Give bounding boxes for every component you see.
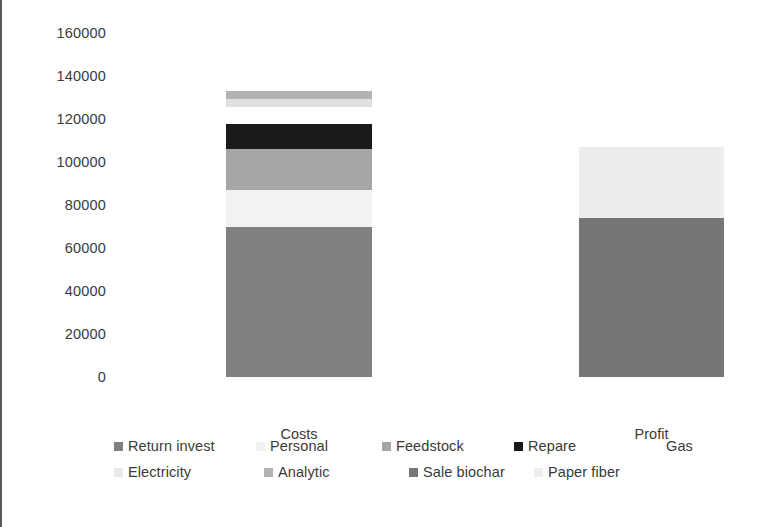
y-axis-tick-label: 0 [10,370,106,385]
y-axis-tick-label: 140000 [10,69,106,84]
bar-segment-return-invest[interactable] [226,227,372,377]
legend-row-1: Return investPersonalFeedstockRepareGas [114,438,734,464]
legend-swatch-icon [409,468,418,477]
bar-segment-sale-biochar[interactable] [579,218,724,377]
bar-stack-profit[interactable] [579,147,724,377]
legend-swatch-icon [382,442,391,451]
legend-item-return-invest[interactable]: Return invest [114,438,215,454]
legend-swatch-icon [652,442,661,451]
bar-segment-feedstock[interactable] [226,149,372,190]
legend-swatch-icon [114,442,123,451]
legend-label: Paper fiber [548,464,620,480]
y-axis-tick-label: 60000 [10,241,106,256]
legend-label: Return invest [128,438,215,454]
bar-segment-gas[interactable] [226,107,372,124]
legend-swatch-icon [534,468,543,477]
legend-label: Feedstock [396,438,464,454]
bar-stack-costs[interactable] [226,91,372,377]
legend-item-analytic[interactable]: Analytic [264,464,330,480]
y-axis-tick-label: 40000 [10,284,106,299]
bar-segment-personal[interactable] [226,190,372,227]
legend-item-paper-fiber[interactable]: Paper fiber [534,464,620,480]
legend-label: Gas [666,438,693,454]
y-axis-tick-label: 80000 [10,198,106,213]
legend-swatch-icon [264,468,273,477]
legend-item-sale-biochar[interactable]: Sale biochar [409,464,505,480]
bar-segment-repare[interactable] [226,124,372,149]
legend-item-gas[interactable]: Gas [652,438,693,454]
plot-area: CostsProfit [114,33,744,377]
bar-segment-analytic[interactable] [226,91,372,99]
legend-label: Personal [270,438,328,454]
legend-swatch-icon [514,442,523,451]
y-axis-tick-label: 120000 [10,112,106,127]
y-axis-tick-label: 100000 [10,155,106,170]
legend-item-feedstock[interactable]: Feedstock [382,438,464,454]
y-axis-tick-label: 20000 [10,327,106,342]
y-axis: 1600001400001200001000008000060000400002… [2,33,106,377]
legend-item-electricity[interactable]: Electricity [114,464,191,480]
legend-swatch-icon [114,468,123,477]
legend-label: Repare [528,438,576,454]
legend-label: Electricity [128,464,191,480]
legend-label: Sale biochar [423,464,505,480]
chart-frame: 1600001400001200001000008000060000400002… [0,0,758,527]
bar-segment-electricity[interactable] [226,99,372,107]
legend-item-personal[interactable]: Personal [256,438,328,454]
legend-item-repare[interactable]: Repare [514,438,576,454]
legend-swatch-icon [256,442,265,451]
bar-segment-paper-fiber[interactable] [579,147,724,218]
legend-row-2: ElectricityAnalyticSale biocharPaper fib… [114,464,734,490]
y-axis-tick-label: 160000 [10,26,106,41]
chart-legend: Return investPersonalFeedstockRepareGas … [114,438,734,490]
legend-label: Analytic [278,464,330,480]
